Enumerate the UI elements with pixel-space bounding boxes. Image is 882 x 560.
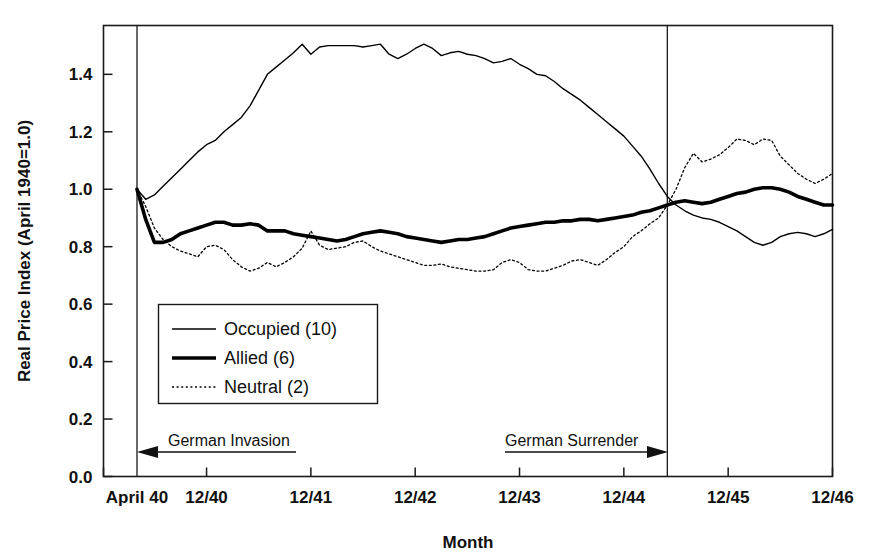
annotation-german-invasion: German Invasion: [137, 432, 296, 458]
legend-label-occupied: Occupied (10): [224, 319, 337, 339]
x-axis-title: Month: [443, 533, 494, 552]
legend-label-allied: Allied (6): [224, 348, 295, 368]
annotation-german-surrender: German Surrender: [505, 432, 668, 458]
y-tick-label: 0.6: [69, 295, 93, 314]
y-axis-ticks: 0.00.20.40.60.81.01.21.4: [69, 65, 113, 486]
event-marker-lines: [137, 26, 667, 477]
y-tick-label: 0.4: [69, 353, 93, 372]
y-tick-label: 1.4: [69, 65, 93, 84]
y-tick-label: 0.8: [69, 238, 93, 257]
y-tick-label: 1.2: [69, 123, 93, 142]
x-tick-label: 12/40: [185, 488, 228, 507]
x-tick-label: 12/44: [603, 488, 646, 507]
annotation-label-german-surrender: German Surrender: [505, 432, 639, 449]
x-tick-label: 12/43: [498, 488, 541, 507]
series-line-neutral: [137, 139, 833, 271]
series-line-occupied: [137, 44, 833, 245]
y-axis-title: Real Price Index (April 1940=1.0): [15, 120, 34, 382]
y-tick-label: 1.0: [69, 180, 93, 199]
x-axis-ticks: April 4012/4012/4112/4212/4312/4412/4512…: [104, 468, 854, 507]
legend: Occupied (10) Allied (6) Neutral (2): [159, 305, 378, 404]
legend-label-neutral: Neutral (2): [224, 377, 309, 397]
series-line-allied: [137, 188, 833, 243]
x-tick-label: 12/45: [707, 488, 750, 507]
x-tick-label: 12/46: [811, 488, 854, 507]
x-tick-label: 12/42: [394, 488, 437, 507]
plot-frame: [104, 26, 833, 477]
data-series-layer: [137, 44, 833, 271]
y-tick-label: 0.0: [69, 468, 93, 487]
line-chart-svg: 0.00.20.40.60.81.01.21.4 April 4012/4012…: [0, 0, 882, 560]
chart-figure: 0.00.20.40.60.81.01.21.4 April 4012/4012…: [0, 0, 882, 560]
x-tick-label: April 40: [106, 488, 168, 507]
annotation-label-german-invasion: German Invasion: [168, 432, 290, 449]
x-tick-label: 12/41: [290, 488, 333, 507]
y-tick-label: 0.2: [69, 410, 93, 429]
